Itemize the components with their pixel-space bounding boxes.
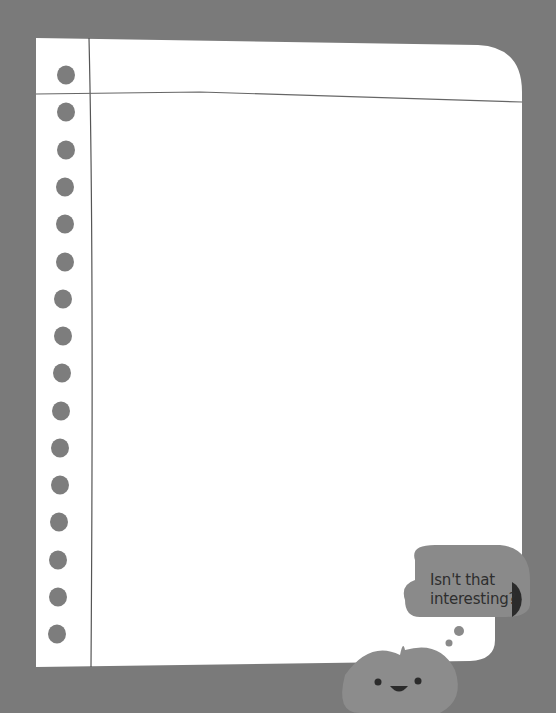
hole [56,253,74,272]
hole [51,439,69,458]
hole [49,588,67,607]
hole [50,513,68,532]
hole [54,290,72,309]
hole [48,625,66,644]
hole [51,476,69,495]
hole [57,66,75,85]
hole [52,402,70,421]
hole [57,103,75,122]
hole [53,364,71,383]
speech-line-1: Isn't that [430,571,550,590]
hole [54,327,72,346]
mascot-eye-left [375,679,382,686]
mascot-eye-right [415,678,422,685]
hole [49,551,67,570]
speech-bubble-text: Isn't that interesting? [430,571,550,609]
hole [56,178,74,197]
hole [57,141,75,160]
hole [56,215,74,234]
speech-line-2: interesting? [430,590,550,609]
